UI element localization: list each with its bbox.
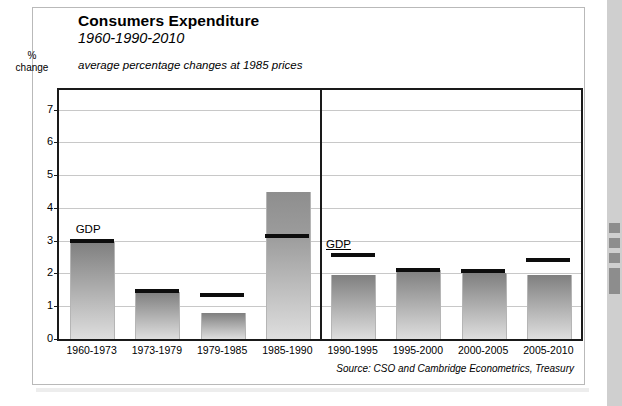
x-axis-label: 2000-2005 — [451, 344, 516, 356]
x-axis-label: 1979-1985 — [190, 344, 255, 356]
gdp-marker-line — [70, 239, 114, 243]
y-axis-caption-unit: % — [8, 50, 56, 62]
bar — [201, 313, 246, 339]
bar — [396, 270, 441, 339]
gdp-marker-line — [200, 293, 244, 297]
x-axis-labels: 1960-19731973-19791979-19851985-19901990… — [57, 344, 583, 360]
bar — [527, 275, 572, 339]
y-axis-tick — [54, 110, 59, 111]
y-axis-tick-label: 3 — [33, 234, 53, 246]
gdp-marker-line — [331, 253, 375, 257]
y-axis-tick — [54, 306, 59, 307]
gdp-label-right: GDP — [326, 238, 351, 250]
x-axis-label: 2005-2010 — [516, 344, 581, 356]
frame-shadow — [36, 388, 589, 392]
y-axis-tick — [54, 175, 59, 176]
plot-area: 01234567GDPGDP — [57, 88, 583, 341]
chart-subtitle: 1960-1990-2010 — [78, 30, 184, 46]
y-axis-tick-label: 4 — [33, 201, 53, 213]
right-edge-strip — [607, 0, 622, 406]
y-axis-tick — [54, 241, 59, 242]
x-axis-label: 1973-1979 — [124, 344, 189, 356]
gdp-label-left: GDP — [76, 223, 101, 235]
chart-title: Consumers Expenditure — [78, 12, 259, 30]
y-axis-caption-word: change — [8, 62, 56, 74]
gdp-marker-line — [526, 258, 570, 262]
y-axis-tick-label: 0 — [33, 332, 53, 344]
gdp-marker-line — [265, 234, 309, 238]
y-axis-tick-label: 6 — [33, 135, 53, 147]
bar — [331, 275, 376, 339]
source-note: Source: CSO and Cambridge Econometrics, … — [336, 363, 574, 374]
y-axis-tick — [54, 208, 59, 209]
y-axis-tick-label: 7 — [33, 103, 53, 115]
y-axis-tick-label: 2 — [33, 266, 53, 278]
gdp-marker-line — [396, 268, 440, 272]
y-axis-tick-label: 1 — [33, 299, 53, 311]
gdp-marker-line — [135, 289, 179, 293]
x-axis-label: 1990-1995 — [320, 344, 385, 356]
y-axis-tick — [54, 273, 59, 274]
bar — [70, 242, 115, 339]
y-axis-tick — [54, 142, 59, 143]
gdp-marker-line — [461, 269, 505, 273]
chart-caption: average percentage changes at 1985 price… — [78, 59, 302, 71]
x-axis-label: 1985-1990 — [255, 344, 320, 356]
bar — [462, 273, 507, 339]
bar — [135, 292, 180, 340]
panel-divider — [320, 88, 322, 341]
bar-highlight-segment — [266, 192, 311, 236]
x-axis-label: 1960-1973 — [59, 344, 124, 356]
y-axis-caption: % change — [8, 50, 56, 73]
x-axis-label: 1995-2000 — [385, 344, 450, 356]
y-axis-tick — [54, 339, 59, 340]
y-axis-tick-label: 5 — [33, 168, 53, 180]
